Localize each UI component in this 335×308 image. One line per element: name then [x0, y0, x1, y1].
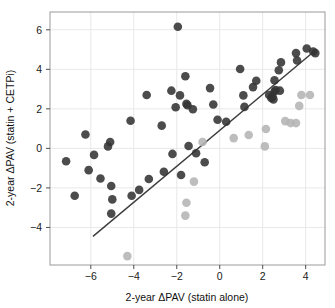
scatter-point [306, 91, 315, 100]
scatter-point [240, 103, 249, 112]
scatter-point [145, 175, 154, 184]
scatter-point [190, 177, 199, 186]
scatter-point [236, 65, 245, 74]
scatter-point [222, 117, 231, 126]
scatter-point [107, 182, 116, 191]
scatter-point [160, 167, 169, 176]
y-tick-label: −4 [30, 221, 42, 233]
scatter-point [213, 115, 222, 124]
scatter-point [174, 23, 183, 32]
scatter-point [275, 66, 284, 75]
scatter-point [96, 174, 105, 183]
y-tick-label: 6 [36, 24, 42, 36]
scatter-point [107, 209, 116, 218]
scatter-point [297, 91, 306, 100]
scatter-point [262, 125, 271, 134]
y-tick-label: 2 [36, 103, 42, 115]
scatter-point [261, 142, 270, 151]
x-tick-label: −4 [128, 270, 140, 282]
scatter-point [239, 91, 248, 100]
scatter-point [167, 86, 176, 95]
scatter-point [270, 76, 279, 85]
scatter-point [70, 192, 79, 201]
scatter-point [84, 166, 93, 175]
scatter-point [171, 103, 180, 112]
chart-canvas: −6−4−2024−4−20246 2-year ΔPAV (statin al… [0, 0, 335, 308]
scatter-point [157, 121, 166, 130]
y-tick-label: −2 [30, 182, 42, 194]
scatter-point [311, 49, 320, 58]
scatter-point [229, 134, 238, 143]
y-tick-label: 0 [36, 142, 42, 154]
y-axis-title: 2-year ΔPAV (statin + CETPi) [4, 70, 16, 206]
x-tick-label: −6 [85, 270, 97, 282]
scatter-point [293, 56, 302, 65]
scatter-point [200, 158, 209, 167]
scatter-point [90, 151, 99, 160]
scatter-point [206, 84, 215, 93]
scatter-point [142, 91, 151, 100]
scatter-point [182, 198, 191, 207]
scatter-point [252, 76, 261, 85]
scatter-plot-figure: −6−4−2024−4−20246 2-year ΔPAV (statin al… [0, 0, 335, 308]
x-axis-title: 2-year ΔPAV (statin alone) [126, 291, 249, 303]
scatter-point [198, 138, 207, 147]
scatter-point [269, 95, 278, 104]
scatter-point [135, 186, 144, 195]
x-tick-label: −2 [171, 270, 183, 282]
x-tick-label: 0 [217, 270, 223, 282]
scatter-point [106, 138, 115, 147]
scatter-point [168, 150, 177, 159]
scatter-point [81, 130, 90, 139]
scatter-point [277, 58, 286, 67]
scatter-point [127, 192, 136, 201]
scatter-point [181, 72, 190, 81]
scatter-point [108, 195, 117, 204]
scatter-point [209, 100, 218, 109]
scatter-point [123, 252, 132, 261]
scatter-point [184, 142, 193, 151]
scatter-point [189, 105, 198, 114]
scatter-point [192, 149, 201, 158]
scatter-point [62, 157, 71, 166]
scatter-point [295, 102, 304, 111]
scatter-point [276, 86, 285, 95]
scatter-point [177, 171, 186, 180]
scatter-point [292, 49, 301, 58]
scatter-point [176, 91, 185, 100]
y-tick-label: 4 [36, 63, 42, 75]
scatter-point [126, 116, 135, 125]
scatter-point [181, 211, 190, 220]
x-tick-label: 2 [260, 270, 266, 282]
scatter-point [244, 131, 253, 140]
x-tick-label: 4 [303, 270, 309, 282]
scatter-point [292, 119, 301, 128]
